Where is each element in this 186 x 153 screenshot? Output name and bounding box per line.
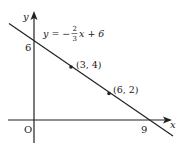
origin-label: O (24, 124, 32, 135)
y-intercept-label: 6 (25, 42, 31, 53)
x-axis-label: x (170, 119, 176, 130)
equation-lhs: y = − (42, 28, 70, 39)
point-3-4 (69, 65, 73, 69)
point-6-2-label: (6, 2) (113, 84, 139, 95)
y-axis-label: y (22, 11, 29, 22)
equation-frac-num: 2 (73, 25, 77, 33)
point-3-4-label: (3, 4) (76, 59, 102, 70)
equation-rhs: x + 6 (79, 28, 104, 39)
graph-canvas: y x O 6 9 y = − 2 3 x + 6 (3, 4) (6, 2) (0, 0, 186, 153)
x-intercept-label: 9 (141, 124, 147, 135)
line-equation: y = − 2 3 x + 6 (42, 25, 104, 43)
equation-frac-den: 3 (73, 35, 77, 43)
point-6-2 (107, 92, 111, 96)
